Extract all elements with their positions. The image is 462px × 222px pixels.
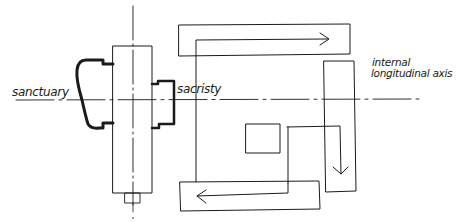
central-courtyard xyxy=(246,124,280,153)
central-nave xyxy=(113,46,152,193)
top-band-inner-line xyxy=(196,39,328,182)
left-arrow-icon xyxy=(197,190,206,203)
axis-label-line2: longitudinal axis xyxy=(371,68,452,79)
sacristy-label: sacristy xyxy=(177,83,221,95)
sanctuary-apse xyxy=(77,60,113,128)
plan-diagram xyxy=(0,0,462,222)
sacristy-block xyxy=(152,81,174,128)
entrance-porch xyxy=(125,193,140,203)
bottom-band-inner-line xyxy=(197,183,288,196)
sanctuary-label: sanctuary xyxy=(12,86,69,98)
axis-end-dot xyxy=(132,217,134,219)
longitudinal-axis-line xyxy=(16,99,420,100)
